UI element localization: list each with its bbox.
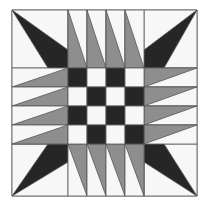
checker-cell (106, 87, 125, 106)
checker-cell (125, 87, 144, 106)
checker-cell (87, 106, 106, 125)
checker-cell (125, 106, 144, 125)
quilt-block (0, 0, 208, 213)
checker-cell (87, 125, 106, 144)
checker-cell (87, 87, 106, 106)
checker-cell (68, 125, 87, 144)
checker-cell (68, 68, 87, 87)
checker-cell (68, 106, 87, 125)
checker-cell (106, 68, 125, 87)
checker-cell (125, 68, 144, 87)
checker-cell (106, 106, 125, 125)
checker-cell (87, 68, 106, 87)
checker-cell (68, 87, 87, 106)
checker-cell (106, 125, 125, 144)
checker-cell (125, 125, 144, 144)
